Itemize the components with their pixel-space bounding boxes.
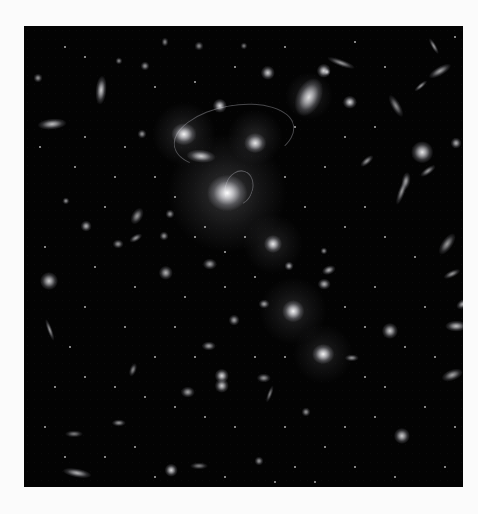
faint-galaxy [324,166,326,168]
galaxy-cluster-image [24,26,463,487]
galaxy [181,387,195,398]
faint-galaxy [424,406,426,408]
faint-galaxy [194,81,196,83]
faint-galaxy [224,476,226,478]
galaxy [264,235,282,253]
faint-galaxy [304,206,306,208]
faint-galaxy [344,136,346,138]
faint-galaxy [424,306,426,308]
galaxy [318,279,331,290]
faint-galaxy [74,166,76,168]
galaxy [40,272,58,290]
faint-galaxy [374,416,376,418]
galaxy [138,130,147,139]
faint-galaxy [174,326,176,328]
faint-galaxy [394,476,396,478]
faint-galaxy [234,66,236,68]
faint-galaxy [364,206,366,208]
faint-galaxy [194,236,196,238]
faint-galaxy [204,226,206,228]
faint-galaxy [154,476,156,478]
galaxy [451,138,462,149]
faint-galaxy [134,446,136,448]
faint-galaxy [84,56,86,58]
galaxy [285,262,294,271]
faint-galaxy [274,481,276,483]
faint-galaxy [194,356,196,358]
faint-galaxy [94,266,96,268]
faint-galaxy [294,466,296,468]
galaxy [244,133,266,153]
faint-galaxy [374,286,376,288]
galaxy [81,221,92,232]
faint-galaxy [294,126,296,128]
faint-galaxy [344,226,346,228]
faint-galaxy [364,326,366,328]
galaxy [113,240,124,249]
faint-galaxy [124,326,126,328]
faint-galaxy [254,276,256,278]
faint-galaxy [84,136,86,138]
faint-galaxy [284,176,286,178]
faint-galaxy [364,376,366,378]
faint-galaxy [134,286,136,288]
faint-galaxy [384,66,386,68]
galaxy [302,408,311,417]
faint-galaxy [354,41,356,43]
galaxy [34,74,43,83]
galaxy [312,344,334,364]
galaxy [259,300,270,309]
faint-galaxy [114,386,116,388]
faint-galaxy [374,126,376,128]
background-noise [24,26,463,487]
faint-galaxy [44,426,46,428]
faint-galaxy [64,46,66,48]
galaxy [343,96,357,109]
faint-galaxy [114,176,116,178]
faint-galaxy [284,46,286,48]
faint-galaxy [154,356,156,358]
faint-galaxy [174,406,176,408]
faint-galaxy [144,396,146,398]
faint-galaxy [69,346,71,348]
faint-galaxy [124,146,126,148]
faint-galaxy [154,86,156,88]
faint-galaxy [404,346,406,348]
galaxy [229,315,240,326]
faint-galaxy [104,456,106,458]
faint-galaxy [354,466,356,468]
faint-galaxy [324,446,326,448]
faint-galaxy [154,176,156,178]
faint-galaxy [314,481,316,483]
faint-galaxy [84,376,86,378]
galaxy [411,141,433,163]
faint-galaxy [84,306,86,308]
galaxy [141,62,150,71]
faint-galaxy [224,251,226,253]
galaxy [203,259,217,270]
galaxy [195,42,204,51]
faint-galaxy [414,256,416,258]
faint-galaxy [344,306,346,308]
faint-galaxy [254,356,256,358]
faint-galaxy [234,426,236,428]
faint-galaxy [39,146,41,148]
faint-galaxy [174,196,176,198]
galaxy [255,457,264,466]
galaxy [207,175,247,211]
faint-galaxy [284,356,286,358]
galaxy [160,232,169,241]
galaxy [282,300,304,322]
galaxy [445,321,463,332]
faint-galaxy [54,386,56,388]
galaxy [165,464,178,477]
galaxy [166,210,175,219]
faint-galaxy [454,36,456,38]
faint-galaxy [104,206,106,208]
faint-galaxy [244,236,246,238]
faint-galaxy [284,426,286,428]
faint-galaxy [44,246,46,248]
faint-galaxy [384,386,386,388]
faint-galaxy [64,456,66,458]
faint-galaxy [344,426,346,428]
